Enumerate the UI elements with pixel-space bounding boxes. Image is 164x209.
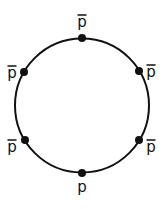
node-group: pppppp xyxy=(7,13,156,196)
node-dot-lower-right xyxy=(135,136,143,144)
node-dot-bottom xyxy=(78,169,86,177)
ring-circle xyxy=(15,39,149,173)
node-dot-upper-right xyxy=(135,67,143,75)
node-dot-upper-left xyxy=(20,68,28,76)
node-dot-top xyxy=(78,34,86,42)
circle-diagram: pppppp xyxy=(0,0,164,209)
node-dot-lower-left xyxy=(21,136,29,144)
node-label-bottom: p xyxy=(77,178,87,196)
